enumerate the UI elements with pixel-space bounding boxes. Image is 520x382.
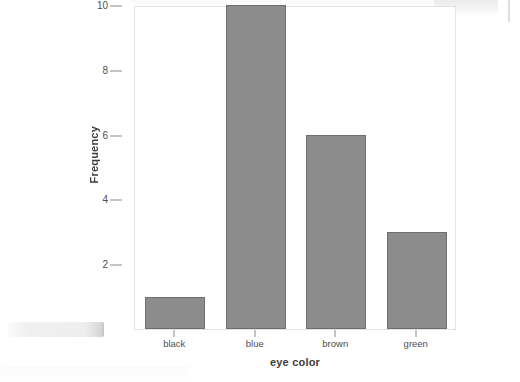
y-tick-mark [110, 135, 122, 136]
y-tick-mark [110, 6, 122, 7]
x-tick-label: black [163, 339, 185, 349]
bar-brown [306, 135, 366, 329]
x-tick-label: blue [246, 339, 264, 349]
x-tick-label: green [404, 339, 428, 349]
bar-group [135, 7, 455, 329]
y-tick-label: 8 [102, 66, 108, 76]
y-tick-label: 4 [102, 195, 108, 205]
bar-blue [226, 5, 286, 329]
x-tick-label: brown [322, 339, 348, 349]
x-tick-mark [174, 330, 175, 337]
bar-green [387, 232, 447, 329]
y-tick-mark [110, 70, 122, 71]
x-axis-title: eye color [134, 356, 456, 368]
y-tick-mark [110, 265, 122, 266]
y-axis-title: Frequency [88, 126, 102, 183]
bar-black [145, 297, 205, 329]
y-tick-mark [110, 200, 122, 201]
plot-panel [134, 6, 456, 330]
y-axis: Frequency 246810 [0, 0, 134, 336]
x-tick-mark [415, 330, 416, 337]
x-tick-mark [254, 330, 255, 337]
y-tick-label: 6 [102, 131, 108, 141]
x-tick-mark [335, 330, 336, 337]
bar-chart: Frequency 246810 blackbluebrowngreen eye… [0, 0, 520, 382]
y-tick-label: 2 [102, 260, 108, 270]
y-tick-label: 10 [97, 1, 108, 11]
